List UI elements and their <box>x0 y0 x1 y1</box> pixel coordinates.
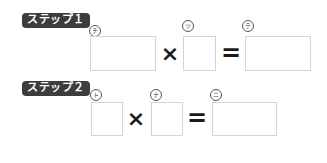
equals-sign: = <box>186 106 208 130</box>
times-sign: × <box>160 43 180 65</box>
marker-tsu: ツ <box>182 20 194 32</box>
step-1-badge: ステップ１ <box>22 13 90 28</box>
marker-to: ト <box>90 89 102 101</box>
marker-te: テ <box>242 20 254 32</box>
marker-na: ナ <box>150 89 162 101</box>
answer-box-te[interactable] <box>245 36 311 71</box>
times-sign: × <box>126 108 146 130</box>
equals-sign: = <box>220 41 242 65</box>
worksheet: ステップ１ チ × ツ = テ ステップ２ ト × ナ = ニ <box>0 0 327 163</box>
step-2-badge: ステップ２ <box>22 81 90 96</box>
answer-box-ni[interactable] <box>212 102 277 136</box>
answer-box-na[interactable] <box>151 102 183 136</box>
answer-box-chi[interactable] <box>90 36 156 71</box>
marker-ni: ニ <box>210 89 222 101</box>
answer-box-tsu[interactable] <box>183 36 216 71</box>
answer-box-to[interactable] <box>91 102 123 136</box>
